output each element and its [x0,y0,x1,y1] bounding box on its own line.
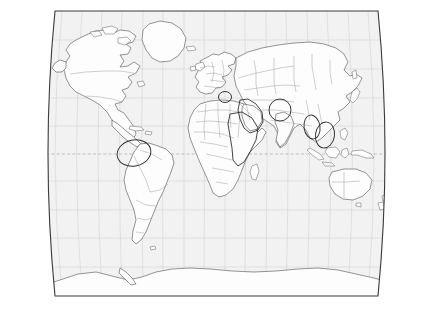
landmass-sakhalin [352,70,357,79]
landmass-tasmania [356,203,361,207]
landmass-hispaniola [145,131,152,135]
landmass-ireland [190,66,196,71]
world-map-figure [0,0,431,313]
landmass-antarctica [41,268,392,300]
landmass-iceland [186,46,196,51]
landmass-falklands [150,246,156,250]
world-map-canvas[interactable] [0,0,431,313]
